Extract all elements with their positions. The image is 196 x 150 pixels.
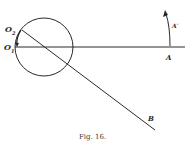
figure-16-diagram: O2 O1 A A′ B Fig. 16. — [0, 0, 196, 150]
line-o2-b — [22, 30, 155, 130]
arc-arrow-a-a-prime — [166, 14, 170, 46]
label-o2: O2 — [5, 24, 16, 36]
label-b: B — [147, 114, 154, 123]
label-a-prime: A′ — [171, 22, 179, 29]
arrowhead-a-prime-icon — [163, 10, 168, 17]
arrowhead-o1-icon — [15, 43, 19, 47]
label-a: A — [165, 53, 172, 62]
figure-caption: Fig. 16. — [79, 133, 106, 141]
label-o1: O1 — [4, 42, 14, 54]
